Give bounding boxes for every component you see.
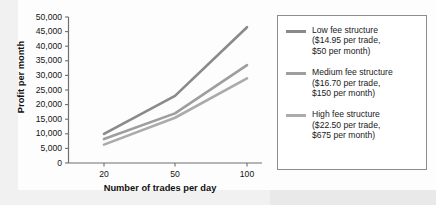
x-tick-label: 50 xyxy=(155,169,195,179)
chart-legend: Low fee structure ($14.95 per trade, $50… xyxy=(277,15,427,170)
legend-color-swatch xyxy=(286,72,306,75)
y-axis-title: Profit per month xyxy=(16,22,26,132)
legend-label: Medium fee structure ($16.70 per trade, … xyxy=(312,67,393,98)
legend-entry: Medium fee structure ($16.70 per trade, … xyxy=(286,67,420,98)
y-tick-label: 50,000 xyxy=(16,12,62,22)
legend-color-swatch xyxy=(286,114,306,117)
chart-figure: 50,00045,00040,00035,00030,00025,00020,0… xyxy=(0,0,436,205)
legend-entry: Low fee structure ($14.95 per trade, $50… xyxy=(286,25,420,56)
legend-entry: High fee structure ($22.50 per trade, $6… xyxy=(286,109,420,140)
legend-color-swatch xyxy=(286,30,306,33)
y-tick-label: 0 xyxy=(16,158,62,168)
x-axis-title: Number of trades per day xyxy=(60,183,260,193)
x-tick-label: 20 xyxy=(84,169,124,179)
data-series-group xyxy=(104,27,247,144)
x-tick-label: 100 xyxy=(227,169,267,179)
series-line xyxy=(104,65,247,139)
legend-label: High fee structure ($22.50 per trade, $6… xyxy=(312,109,380,140)
legend-label: Low fee structure ($14.95 per trade, $50… xyxy=(312,25,380,56)
y-tick-label: 5,000 xyxy=(16,143,62,153)
